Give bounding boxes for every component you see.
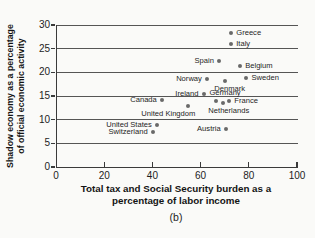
- x-tick-mark-40: [152, 162, 153, 167]
- gridline-y-5: [57, 143, 298, 144]
- gridline-y-30: [57, 25, 298, 26]
- data-point-sweden: [244, 76, 248, 80]
- point-label-ireland: Ireland: [175, 90, 198, 98]
- x-tick-label-40: 40: [137, 171, 167, 181]
- y-tick-label-25: 25: [22, 44, 50, 54]
- data-point-canada: [160, 98, 164, 102]
- y-axis-title-line1: Shadow economy as a percentage: [5, 3, 16, 189]
- point-label-sweden: Sweden: [251, 74, 278, 82]
- x-tick-mark-100: [296, 162, 297, 167]
- x-tick-label-80: 80: [234, 171, 264, 181]
- y-tick-mark-20: [51, 72, 55, 73]
- x-tick-mark-60: [200, 162, 201, 167]
- data-point-austria: [224, 127, 228, 131]
- y-tick-mark-30: [51, 24, 55, 25]
- x-axis-title: Total tax and Social Security burden as …: [46, 183, 306, 207]
- y-tick-mark-25: [51, 48, 55, 49]
- x-tick-mark-20: [104, 162, 105, 167]
- gridline-y-25: [57, 48, 298, 49]
- y-tick-label-20: 20: [22, 67, 50, 77]
- figure-label: (b): [46, 211, 306, 223]
- y-tick-label-10: 10: [22, 115, 50, 125]
- data-point-united-kingdom: [186, 104, 190, 108]
- data-point-greece: [229, 31, 233, 35]
- y-tick-mark-10: [51, 119, 55, 120]
- x-tick-label-100: 100: [282, 171, 312, 181]
- point-label-switzerland: Switzerland: [108, 127, 147, 135]
- x-tick-label-0: 0: [41, 171, 71, 181]
- x-axis-title-line2: percentage of labor income: [46, 195, 306, 207]
- data-point-spain: [217, 59, 221, 63]
- gridline-y-10: [57, 119, 298, 120]
- point-label-italy: Italy: [236, 40, 250, 48]
- y-tick-mark-0: [51, 166, 55, 167]
- x-tick-label-60: 60: [186, 171, 216, 181]
- data-point-france: [227, 99, 231, 103]
- scatter-chart: Shadow economy as a percentage of offici…: [0, 0, 315, 238]
- data-point-switzerland: [151, 130, 155, 134]
- x-axis-title-line1: Total tax and Social Security burden as …: [46, 183, 306, 195]
- plot-area: GreeceItalySpainBelgiumNorwaySwedenDenma…: [56, 25, 298, 168]
- y-tick-label-5: 5: [22, 138, 50, 148]
- data-point-italy: [229, 42, 233, 46]
- point-label-france: France: [234, 97, 258, 105]
- y-tick-label-30: 30: [22, 20, 50, 30]
- data-point-netherlands: [221, 101, 225, 105]
- point-label-united-kingdom: United Kingdom: [141, 110, 195, 118]
- point-label-canada: Canada: [130, 95, 157, 103]
- data-point-denmark: [223, 79, 227, 83]
- point-label-netherlands: Netherlands: [208, 107, 249, 115]
- x-tick-label-20: 20: [89, 171, 119, 181]
- y-tick-label-15: 15: [22, 91, 50, 101]
- data-point-norway: [205, 77, 209, 81]
- data-point-germany: [214, 99, 218, 103]
- y-tick-mark-15: [51, 95, 55, 96]
- x-tick-mark-80: [248, 162, 249, 167]
- point-label-norway: Norway: [176, 75, 202, 83]
- data-point-belgium: [238, 64, 242, 68]
- point-label-belgium: Belgium: [245, 61, 272, 69]
- point-label-spain: Spain: [195, 57, 214, 65]
- point-label-greece: Greece: [236, 28, 261, 36]
- data-point-united-states: [155, 123, 159, 127]
- data-point-ireland: [202, 92, 206, 96]
- point-label-austria: Austria: [197, 124, 221, 132]
- y-tick-mark-5: [51, 143, 55, 144]
